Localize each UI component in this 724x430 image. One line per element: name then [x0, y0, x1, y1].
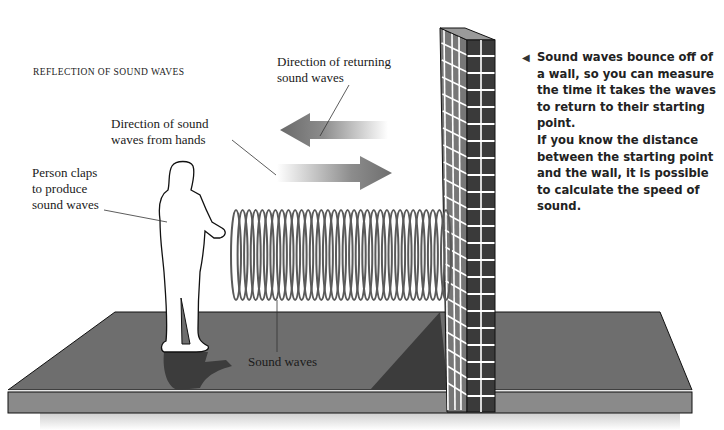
floor-front	[8, 392, 692, 413]
slab-fade	[40, 413, 680, 430]
label-line: Direction of returning	[277, 54, 391, 70]
diagram-title: REFLECTION OF SOUND WAVES	[33, 67, 184, 77]
label-person-claps: Person claps to produce sound waves	[32, 165, 99, 213]
label-line: Direction of sound	[111, 116, 208, 132]
note-paragraph-1: Sound waves bounce off of a wall, so you…	[537, 49, 717, 132]
leader-from-hands	[232, 140, 276, 175]
label-returning-waves: Direction of returning sound waves	[277, 54, 391, 86]
sound-wave-coils	[231, 210, 451, 300]
leader-person	[104, 210, 167, 222]
label-line: sound waves	[277, 70, 391, 86]
label-waves-from-hands: Direction of sound waves from hands	[111, 116, 208, 148]
outgoing-arrow	[277, 156, 392, 190]
label-line: to produce	[32, 181, 99, 197]
label-sound-waves: Sound waves	[248, 354, 317, 370]
note-paragraph-2: If you know the distance between the sta…	[537, 132, 717, 215]
pointer-triangle-icon: ◀	[522, 50, 530, 67]
label-line: waves from hands	[111, 132, 208, 148]
explanation-note: ◀ Sound waves bounce off of a wall, so y…	[537, 49, 717, 215]
floor-top	[8, 312, 692, 390]
label-line: sound waves	[32, 197, 99, 213]
label-line: Person claps	[32, 165, 99, 181]
returning-arrow	[280, 113, 388, 147]
